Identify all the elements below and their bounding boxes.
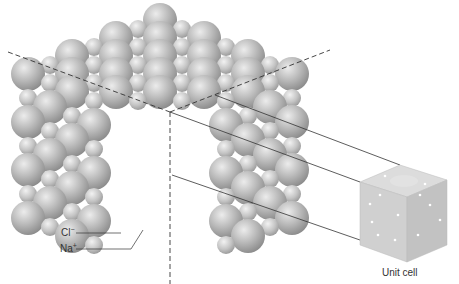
cl-ion-sphere: [275, 153, 309, 187]
cl-ion-sphere: [143, 75, 177, 109]
cl-ion-sphere: [231, 219, 265, 253]
cl-ion-label: Cl−: [61, 226, 75, 238]
cl-ion-sphere: [11, 57, 45, 91]
na-ion-sphere: [217, 92, 235, 110]
na-ion-sphere: [85, 92, 103, 110]
cl-ion-sphere: [275, 201, 309, 235]
na-ion-label: Na+: [60, 242, 77, 254]
cl-ion-sphere: [187, 75, 221, 109]
na-label-charge: +: [73, 242, 77, 249]
na-ion-sphere: [129, 92, 147, 110]
na-ion-sphere: [217, 188, 235, 206]
na-ion-sphere: [217, 140, 235, 158]
unit-cell-cube: [360, 165, 447, 262]
cl-ion-sphere: [275, 57, 309, 91]
cl-ion-sphere: [11, 153, 45, 187]
cl-ion-sphere: [11, 105, 45, 139]
na-ion-sphere: [85, 188, 103, 206]
cl-ion-sphere: [275, 105, 309, 139]
na-label-text: Na: [60, 243, 73, 254]
unit-cell-label: Unit cell: [382, 267, 418, 278]
crystal-spheres: [11, 3, 309, 254]
na-ion-sphere: [217, 236, 235, 254]
na-ion-sphere: [85, 236, 103, 254]
cl-ion-sphere: [11, 201, 45, 235]
cl-label-charge: −: [70, 226, 74, 233]
na-ion-sphere: [85, 140, 103, 158]
